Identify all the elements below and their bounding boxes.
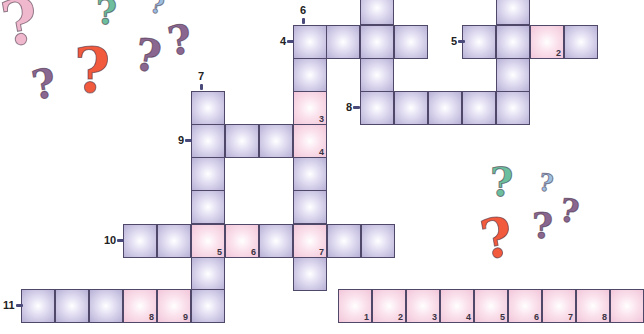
letter-cell[interactable] <box>564 25 598 59</box>
highlighted-letter-cell[interactable]: 5 <box>191 224 225 258</box>
letter-cell[interactable] <box>191 124 225 158</box>
cell-key-number: 5 <box>217 247 222 257</box>
letter-cell[interactable] <box>360 25 394 59</box>
letter-cell[interactable] <box>157 224 191 258</box>
letter-cell[interactable] <box>394 25 428 59</box>
highlighted-letter-cell[interactable]: 6 <box>225 224 259 258</box>
letter-cell[interactable] <box>123 224 157 258</box>
question-mark-icon: ? <box>532 204 553 246</box>
letter-cell[interactable] <box>225 124 259 158</box>
arrow-right-icon <box>185 139 192 142</box>
letter-cell[interactable] <box>21 289 55 323</box>
letter-cell[interactable] <box>496 0 530 25</box>
letter-cell[interactable] <box>293 157 327 191</box>
clue-number-9-across: 9 <box>178 134 192 146</box>
answer-position-number: 6 <box>534 312 539 322</box>
question-mark-icon: ? <box>557 191 582 232</box>
answer-strip-cell[interactable]: 4 <box>440 289 474 323</box>
answer-position-number: 5 <box>500 312 505 322</box>
clue-number-label: 4 <box>280 35 286 47</box>
letter-cell[interactable] <box>191 289 225 323</box>
question-mark-icon: ? <box>131 28 165 83</box>
cell-key-number: 6 <box>251 247 256 257</box>
highlighted-letter-cell[interactable]: 9 <box>157 289 191 323</box>
letter-cell[interactable] <box>293 190 327 224</box>
cell-key-number: 9 <box>183 312 188 322</box>
answer-position-number: 2 <box>398 312 403 322</box>
answer-strip-cell[interactable]: 3 <box>406 289 440 323</box>
clue-number-11-across: 11 <box>3 299 23 311</box>
arrow-down-icon <box>200 84 203 90</box>
letter-cell[interactable] <box>293 257 327 291</box>
letter-cell[interactable] <box>191 157 225 191</box>
clue-number-7-down: 7 <box>194 70 208 82</box>
letter-cell[interactable] <box>326 25 360 59</box>
letter-cell[interactable] <box>191 190 225 224</box>
letter-cell[interactable] <box>496 91 530 125</box>
arrow-down-icon <box>302 18 305 24</box>
highlighted-letter-cell[interactable]: 4 <box>293 124 327 158</box>
answer-strip-cell[interactable]: 7 <box>542 289 576 323</box>
letter-cell[interactable] <box>327 224 361 258</box>
letter-cell[interactable] <box>191 257 225 291</box>
arrow-right-icon <box>16 304 23 307</box>
letter-cell[interactable] <box>462 91 496 125</box>
answer-strip-cell[interactable] <box>610 289 644 323</box>
clue-number-label: 11 <box>3 299 15 311</box>
answer-position-number: 8 <box>602 312 607 322</box>
letter-cell[interactable] <box>293 25 327 59</box>
answer-strip-cell[interactable]: 2 <box>372 289 406 323</box>
question-mark-icon: ? <box>537 167 556 198</box>
letter-cell[interactable] <box>394 91 428 125</box>
answer-position-number: 3 <box>432 312 437 322</box>
letter-cell[interactable] <box>293 58 327 92</box>
question-mark-icon: ? <box>476 204 518 273</box>
highlighted-letter-cell[interactable]: 3 <box>293 91 327 125</box>
question-mark-icon: ? <box>0 0 44 62</box>
answer-position-number: 1 <box>364 312 369 322</box>
letter-cell[interactable] <box>361 224 395 258</box>
letter-cell[interactable] <box>360 91 394 125</box>
answer-position-number: 7 <box>568 312 573 322</box>
question-mark-icon: ? <box>490 158 513 205</box>
question-mark-icon: ? <box>148 0 167 20</box>
letter-cell[interactable] <box>259 224 293 258</box>
letter-cell[interactable] <box>496 58 530 92</box>
letter-cell[interactable] <box>360 0 394 25</box>
answer-strip-cell[interactable]: 1 <box>338 289 372 323</box>
cell-key-number: 2 <box>556 48 561 58</box>
arrow-right-icon <box>287 40 294 43</box>
letter-cell[interactable] <box>89 289 123 323</box>
answer-strip-cell[interactable]: 5 <box>474 289 508 323</box>
arrow-right-icon <box>117 239 124 242</box>
highlighted-letter-cell[interactable]: 7 <box>293 224 327 258</box>
clue-number-label: 5 <box>451 35 457 47</box>
clue-number-6-down: 6 <box>296 4 310 16</box>
question-mark-icon: ? <box>96 0 117 32</box>
answer-strip-cell[interactable]: 6 <box>508 289 542 323</box>
question-mark-icon: ? <box>74 34 110 107</box>
question-mark-icon: ? <box>28 58 59 108</box>
arrow-right-icon <box>353 106 360 109</box>
clue-number-label: 9 <box>178 134 184 146</box>
cell-key-number: 3 <box>319 114 324 124</box>
question-mark-icon: ? <box>164 14 195 64</box>
clue-number-4-across: 4 <box>280 35 294 47</box>
highlighted-letter-cell[interactable]: 2 <box>530 25 564 59</box>
letter-cell[interactable] <box>462 25 496 59</box>
clue-number-label: 8 <box>346 101 352 113</box>
clue-number-10-across: 10 <box>104 234 124 246</box>
letter-cell[interactable] <box>191 91 225 125</box>
cell-key-number: 7 <box>319 247 324 257</box>
letter-cell[interactable] <box>360 58 394 92</box>
highlighted-letter-cell[interactable]: 8 <box>123 289 157 323</box>
clue-number-label: 10 <box>104 234 116 246</box>
cell-key-number: 8 <box>149 312 154 322</box>
letter-cell[interactable] <box>428 91 462 125</box>
answer-strip-cell[interactable]: 8 <box>576 289 610 323</box>
letter-cell[interactable] <box>259 124 293 158</box>
answer-position-number: 4 <box>466 312 471 322</box>
letter-cell[interactable] <box>496 25 530 59</box>
letter-cell[interactable] <box>55 289 89 323</box>
clue-number-8-across: 8 <box>346 101 360 113</box>
